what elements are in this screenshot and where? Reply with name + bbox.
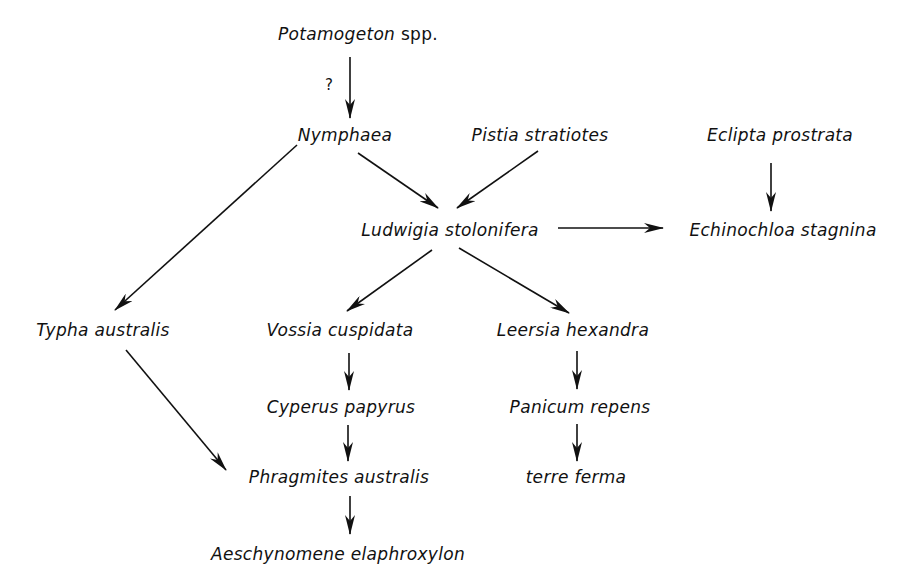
arrow-typha-phragmites bbox=[126, 350, 226, 470]
arrow-ludwigia-vossia bbox=[347, 250, 432, 311]
node-cyperus-papyrus: Cyperus papyrus bbox=[267, 397, 415, 417]
node-typha-australis: Typha australis bbox=[36, 320, 169, 340]
uncertain-mark: ? bbox=[325, 76, 333, 94]
node-nymphaea: Nymphaea bbox=[298, 125, 393, 145]
arrows-layer bbox=[0, 0, 897, 588]
node-terre-ferma: terre ferma bbox=[526, 467, 627, 487]
node-aeschynomene-elaphroxylon: Aeschynomene elaphroxylon bbox=[211, 544, 465, 564]
arrow-pistia-ludwigia bbox=[457, 151, 538, 208]
node-pistia-stratiotes: Pistia stratiotes bbox=[472, 125, 609, 145]
node-vossia-cuspidata: Vossia cuspidata bbox=[267, 320, 414, 340]
arrow-nymphaea-ludwigia bbox=[358, 153, 438, 208]
node-eclipta-prostrata: Eclipta prostrata bbox=[707, 125, 853, 145]
node-potamogeton: Potamogeton spp. bbox=[278, 24, 438, 44]
node-panicum-repens: Panicum repens bbox=[510, 397, 651, 417]
node-echinochloa-stagnina: Echinochloa stagnina bbox=[689, 220, 876, 240]
node-phragmites-australis: Phragmites australis bbox=[249, 467, 429, 487]
node-ludwigia-stolonifera: Ludwigia stolonifera bbox=[361, 220, 538, 240]
node-leersia-hexandra: Leersia hexandra bbox=[497, 320, 649, 340]
arrow-ludwigia-leersia bbox=[459, 248, 569, 313]
arrow-nymphaea-typha bbox=[115, 145, 297, 310]
